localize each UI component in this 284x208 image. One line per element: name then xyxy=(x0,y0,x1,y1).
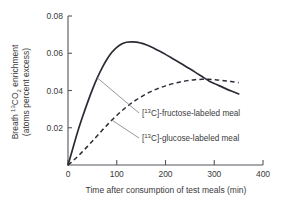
chart-canvas: 0.08 0.06 0.04 0.02 0 100 200 300 400 Ti… xyxy=(0,0,284,208)
y-tick-label-4: 0.08 xyxy=(46,11,63,21)
y-axis-title: Breath 13CO2 enrichment (atoms percent e… xyxy=(10,44,32,139)
fructose-text: C]-fructose-labeled meal xyxy=(151,109,240,118)
x-tick-label-4: 400 xyxy=(256,169,270,179)
y-title-pre: Breath xyxy=(10,112,20,139)
series-fructose-line xyxy=(68,42,239,165)
x-tick-label-2: 200 xyxy=(158,169,172,179)
y-tick-label-2: 0.04 xyxy=(46,86,63,96)
x-axis-title: Time after consumption of test meals (mi… xyxy=(86,185,247,195)
x-tick-label-3: 300 xyxy=(207,169,221,179)
y-axis-title-line2: (atoms percent excess) xyxy=(21,48,31,137)
x-axis xyxy=(68,160,263,165)
y-axis xyxy=(68,16,72,165)
series-glucose-line xyxy=(68,79,239,165)
fructose-annotation-label: [13C]-fructose-labeled meal xyxy=(142,108,240,118)
x-tick-label-0: 0 xyxy=(66,169,71,179)
x-tick-label-1: 100 xyxy=(110,169,124,179)
glucose-leader-line xyxy=(112,120,139,138)
y-title-mid: CO xyxy=(10,92,20,105)
y-axis-title-line1: Breath 13CO2 enrichment xyxy=(10,44,22,139)
y-tick-label-3: 0.06 xyxy=(46,48,63,58)
y-title-post: enrichment xyxy=(10,44,20,89)
y-tick-label-1: 0.02 xyxy=(46,123,63,133)
glucose-text: C]-glucose-labeled meal xyxy=(151,134,239,143)
chart-figure: 0.08 0.06 0.04 0.02 0 100 200 300 400 Ti… xyxy=(0,0,284,208)
series-group xyxy=(68,42,239,165)
fructose-leader-line xyxy=(97,78,139,113)
glucose-annotation-label: [13C]-glucose-labeled meal xyxy=(142,133,239,143)
